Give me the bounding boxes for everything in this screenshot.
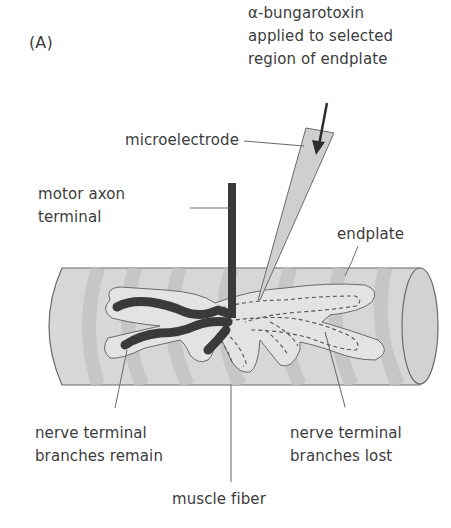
toxin-label: α-bungarotoxin applied to selected regio… bbox=[248, 2, 393, 71]
panel-label: (A) bbox=[29, 31, 53, 54]
toxin-label-line3: region of endplate bbox=[248, 48, 393, 71]
toxin-label-line1: α-bungarotoxin bbox=[248, 2, 393, 25]
branches-lost-label: nerve terminal branches lost bbox=[290, 422, 402, 468]
branches-remain-label: nerve terminal branches remain bbox=[35, 422, 163, 468]
toxin-label-line2: applied to selected bbox=[248, 25, 393, 48]
motor-axon-label-line1: motor axon bbox=[38, 183, 125, 206]
muscle-fiber-label: muscle fiber bbox=[172, 488, 266, 511]
fiber-end-cap bbox=[402, 268, 438, 384]
branches-lost-line1: nerve terminal bbox=[290, 422, 402, 445]
branches-lost-line2: branches lost bbox=[290, 445, 402, 468]
branches-remain-line1: nerve terminal bbox=[35, 422, 163, 445]
endplate-label: endplate bbox=[337, 223, 404, 246]
motor-axon-label-line2: terminal bbox=[38, 206, 125, 229]
microelectrode-label: microelectrode bbox=[125, 129, 239, 152]
diagram-stage: (A) α-bungarotoxin applied to selected r… bbox=[0, 0, 451, 528]
branches-remain-line2: branches remain bbox=[35, 445, 163, 468]
motor-axon-label: motor axon terminal bbox=[38, 183, 125, 229]
